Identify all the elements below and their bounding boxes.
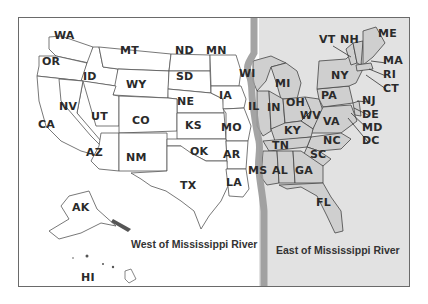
- state-label-il: IL: [248, 101, 260, 112]
- state-label-hi: HI: [81, 272, 95, 283]
- state-label-mn: MN: [206, 45, 227, 56]
- state-label-dc: DC: [362, 135, 380, 146]
- state-label-pa: PA: [321, 90, 337, 101]
- state-label-mo: MO: [221, 122, 242, 133]
- state-label-in: IN: [267, 102, 281, 113]
- state-label-co: CO: [132, 115, 150, 126]
- state-label-tn: TN: [272, 140, 289, 151]
- state-label-fl: FL: [316, 197, 331, 208]
- state-label-de: DE: [362, 109, 379, 120]
- west-state-borders: [37, 36, 251, 239]
- state-label-ca: CA: [38, 119, 55, 130]
- state-label-ks: KS: [185, 120, 202, 131]
- state-label-nm: NM: [126, 152, 147, 163]
- state-label-ak: AK: [72, 202, 89, 213]
- state-label-mt: MT: [120, 45, 139, 56]
- state-label-oh: OH: [286, 97, 305, 108]
- state-label-md: MD: [362, 122, 382, 133]
- state-label-nh: NH: [340, 34, 359, 45]
- state-label-me: ME: [378, 28, 397, 39]
- west-region-caption: West of Mississippi River: [131, 238, 257, 250]
- state-label-ok: OK: [190, 146, 208, 157]
- state-label-ga: GA: [295, 165, 313, 176]
- state-label-sc: SC: [310, 149, 326, 160]
- state-label-mi: MI: [275, 78, 290, 89]
- state-label-ri: RI: [383, 69, 396, 80]
- state-label-ct: CT: [383, 83, 399, 94]
- state-label-nc: NC: [323, 135, 341, 146]
- state-label-az: AZ: [86, 147, 103, 158]
- hawaii-shape: [125, 269, 136, 283]
- state-label-ky: KY: [284, 125, 301, 136]
- state-label-la: LA: [226, 177, 242, 188]
- state-label-ne: NE: [177, 96, 194, 107]
- state-label-vt: VT: [319, 34, 335, 45]
- state-label-sd: SD: [176, 71, 193, 82]
- state-label-ma: MA: [383, 55, 403, 66]
- state-label-ar: AR: [223, 149, 240, 160]
- state-label-ms: MS: [248, 165, 267, 176]
- state-label-va: VA: [323, 116, 340, 127]
- state-label-nd: ND: [175, 45, 194, 56]
- state-label-al: AL: [272, 165, 288, 176]
- state-label-ut: UT: [91, 111, 108, 122]
- state-label-or: OR: [42, 56, 60, 67]
- state-label-nv: NV: [59, 101, 77, 112]
- east-region-caption: East of Mississippi River: [276, 244, 400, 256]
- state-label-nj: NJ: [362, 95, 376, 106]
- state-label-wy: WY: [126, 79, 147, 90]
- state-label-ny: NY: [331, 70, 349, 81]
- state-label-tx: TX: [180, 180, 196, 191]
- state-label-wa: WA: [54, 30, 75, 41]
- state-label-id: ID: [83, 71, 97, 82]
- state-label-ia: IA: [219, 90, 232, 101]
- state-label-wv: WV: [300, 110, 321, 121]
- state-label-wi: WI: [239, 68, 256, 79]
